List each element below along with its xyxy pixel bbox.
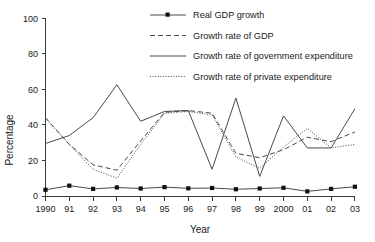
legend-item-government-expenditure: Growth rate of government expenditure [150, 51, 353, 61]
x-tick-label-95: 95 [159, 204, 169, 214]
y-axis-title: Percentage [4, 114, 15, 166]
series-government-expenditure [46, 85, 355, 177]
line-chart: Percentage 100 80 60 40 20 0 [0, 0, 375, 242]
x-axis [46, 197, 356, 202]
data-point-marker [329, 187, 333, 191]
data-point-marker [91, 187, 95, 191]
x-tick-label-1990: 1990 [35, 204, 55, 214]
data-point-marker [281, 186, 285, 190]
data-point-marker [67, 184, 71, 188]
y-axis [42, 18, 46, 196]
y-tick-label-40: 40 [28, 120, 38, 130]
y-axis-tick-labels: 100 80 60 40 20 0 [23, 14, 38, 202]
private-expenditure-line [46, 111, 355, 178]
series-private-expenditure [46, 111, 355, 178]
data-point-marker [234, 187, 238, 191]
y-tick-label-20: 20 [28, 156, 38, 166]
x-axis-title: Year [190, 224, 211, 235]
chart-container: Percentage 100 80 60 40 20 0 [0, 0, 375, 242]
legend-item-private-expenditure: Growth rate of private expenditure [150, 72, 332, 82]
legend-item-real-gdp-growth: Real GDP growth [150, 10, 264, 20]
x-tick-label-92: 92 [88, 204, 98, 214]
series-real-gdp-growth [43, 184, 357, 194]
x-tick-label-02: 02 [326, 204, 336, 214]
y-tick-label-60: 60 [28, 85, 38, 95]
x-tick-label-03: 03 [350, 204, 360, 214]
legend-label-government-expenditure: Growth rate of government expenditure [193, 51, 353, 61]
data-point-marker [353, 185, 357, 189]
data-point-marker [186, 186, 190, 190]
x-tick-label-91: 91 [64, 204, 74, 214]
y-tick-label-100: 100 [23, 14, 38, 24]
y-tick-label-80: 80 [28, 49, 38, 59]
x-tick-label-2000: 2000 [273, 204, 293, 214]
x-tick-label-97: 97 [207, 204, 217, 214]
x-axis-tick-labels: 1990 91 92 93 94 95 96 97 98 99 2000 01 … [35, 204, 359, 214]
legend-marker-square [166, 13, 170, 17]
legend-label-real-gdp-growth: Real GDP growth [193, 10, 264, 20]
data-point-marker [305, 189, 309, 193]
legend-label-private-expenditure: Growth rate of private expenditure [193, 72, 332, 82]
y-axis-title-group: Percentage [4, 114, 15, 166]
data-point-marker [115, 185, 119, 189]
legend-label-gdp-growth-rate: Growth rate of GDP [193, 31, 274, 41]
x-tick-label-01: 01 [302, 204, 312, 214]
y-tick-label-0: 0 [33, 191, 38, 201]
data-point-marker [210, 186, 214, 190]
data-point-marker [139, 186, 143, 190]
data-point-marker [162, 185, 166, 189]
legend: Real GDP growth Growth rate of GDP Growt… [150, 10, 353, 82]
x-tick-label-99: 99 [255, 204, 265, 214]
data-point-marker [258, 186, 262, 190]
x-tick-label-96: 96 [183, 204, 193, 214]
x-tick-label-98: 98 [231, 204, 241, 214]
x-tick-label-94: 94 [136, 204, 146, 214]
x-tick-label-93: 93 [112, 204, 122, 214]
government-expenditure-line [46, 85, 355, 177]
legend-item-gdp-growth-rate: Growth rate of GDP [150, 31, 274, 41]
data-point-marker [43, 188, 47, 192]
